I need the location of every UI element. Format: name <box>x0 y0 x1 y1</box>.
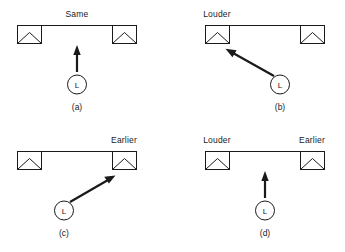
listener-label: L <box>75 81 80 90</box>
right-source-label: Earlier <box>299 135 325 145</box>
panel-c: Earlier L (c) <box>0 126 172 252</box>
direction-arrow <box>261 171 268 198</box>
panel-caption: (b) <box>275 102 286 112</box>
panel-caption: (c) <box>59 228 69 238</box>
left-speaker-icon <box>206 26 230 44</box>
left-speaker-icon <box>206 152 230 170</box>
panel-caption: (a) <box>72 102 83 112</box>
direction-arrow <box>73 45 80 72</box>
right-speaker-icon <box>113 152 137 170</box>
stereo-localization-figure: Same L (a) Lo <box>0 0 345 252</box>
right-source-label: Earlier <box>111 135 137 145</box>
center-source-label: Same <box>65 9 88 19</box>
left-source-label: Louder <box>203 135 231 145</box>
right-speaker-icon <box>301 26 325 44</box>
listener-marker: L <box>256 201 275 220</box>
listener-marker: L <box>55 201 74 220</box>
left-source-label: Louder <box>203 9 231 19</box>
listener-label: L <box>263 207 268 216</box>
panel-a: Same L (a) <box>0 0 172 126</box>
listener-label: L <box>62 207 67 216</box>
left-speaker-icon <box>18 26 42 44</box>
left-speaker-icon <box>18 152 42 170</box>
listener-marker: L <box>68 75 87 94</box>
right-speaker-icon <box>113 26 137 44</box>
direction-arrow <box>70 176 116 202</box>
panel-b: Louder L (b) <box>172 0 344 126</box>
listener-marker: L <box>271 75 290 94</box>
right-speaker-icon <box>301 152 325 170</box>
panel-caption: (d) <box>260 228 271 238</box>
panel-d: Louder Earlier L (d) <box>172 126 344 252</box>
listener-label: L <box>278 81 283 90</box>
direction-arrow <box>226 49 275 76</box>
